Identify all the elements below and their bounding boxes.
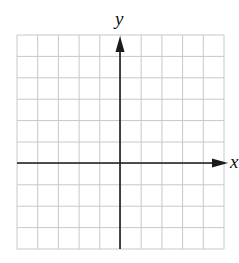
y-axis-label: y [113,8,124,29]
y-axis-arrow-icon [116,36,125,52]
coordinate-plane: x y [0,0,239,263]
x-axis [17,159,228,168]
x-axis-label: x [229,151,239,172]
x-axis-arrow-icon [212,159,228,168]
